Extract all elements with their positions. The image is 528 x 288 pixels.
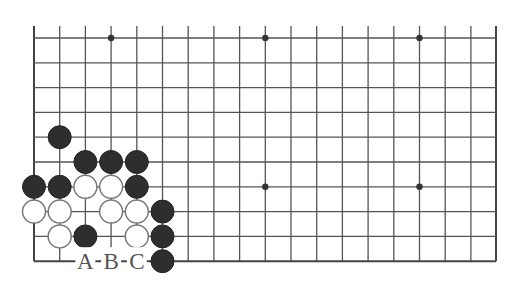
board-grid — [34, 26, 496, 261]
point-label: C — [129, 249, 144, 274]
white-stone — [100, 200, 123, 223]
go-board-diagram: ABC — [0, 0, 528, 288]
white-stone — [23, 200, 46, 223]
black-stone — [23, 175, 46, 198]
black-stone — [74, 151, 97, 174]
black-stone — [100, 151, 123, 174]
star-point-icon — [262, 184, 268, 190]
star-point-icon — [416, 35, 422, 41]
black-stone — [48, 175, 71, 198]
white-stone — [125, 225, 148, 248]
black-stone — [151, 250, 174, 273]
star-point-icon — [416, 184, 422, 190]
stones-layer — [23, 126, 175, 273]
point-label: B — [103, 249, 118, 274]
point-label: A — [77, 249, 94, 274]
black-stone — [125, 175, 148, 198]
star-point-icon — [262, 35, 268, 41]
black-stone — [151, 200, 174, 223]
white-stone — [74, 175, 97, 198]
black-stone — [74, 225, 97, 248]
white-stone — [48, 200, 71, 223]
black-stone — [151, 225, 174, 248]
black-stone — [125, 151, 148, 174]
white-stone — [48, 225, 71, 248]
white-stone — [125, 200, 148, 223]
white-stone — [100, 175, 123, 198]
point-labels: ABC — [75, 247, 146, 274]
star-point-icon — [108, 35, 114, 41]
black-stone — [48, 126, 71, 149]
